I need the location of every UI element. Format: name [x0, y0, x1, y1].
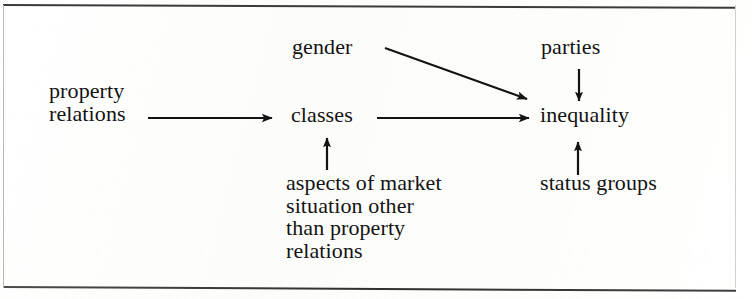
edge-gender-to-inequality: [385, 48, 527, 99]
node-parties: parties: [541, 36, 600, 58]
node-aspects-of-market-situation: aspects of market situation other than p…: [286, 172, 442, 262]
node-gender: gender: [292, 36, 352, 58]
node-status-groups: status groups: [540, 172, 657, 194]
diagram-figure: property relations gender classes aspect…: [0, 0, 752, 299]
node-inequality: inequality: [540, 104, 629, 126]
node-classes: classes: [291, 104, 353, 126]
node-property-relations: property relations: [49, 80, 126, 125]
